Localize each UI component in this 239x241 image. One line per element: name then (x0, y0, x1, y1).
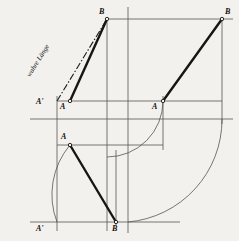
arc-outer-quarter (128, 119, 222, 222)
point-marker-a-middle (68, 99, 71, 102)
label-a-prime-bottom: A' (36, 225, 44, 233)
label-a-middle: A (60, 103, 65, 111)
point-marker-b-top-right (220, 17, 223, 20)
label-b-top-left: B (99, 8, 104, 16)
segment-a-to-b-upper-left (70, 19, 107, 101)
label-a-prime-left: A' (36, 98, 44, 106)
arc-small-left (52, 145, 70, 222)
point-marker-a-lower (68, 143, 71, 146)
label-b-bottom: B (112, 225, 117, 233)
point-marker-b-top-left (105, 17, 108, 20)
construction-drawing-svg (0, 0, 239, 241)
segment-a-to-b-lower (70, 145, 116, 222)
technical-drawing-canvas: wahre Länge B B A' A A A A' B (0, 0, 239, 241)
point-marker-a-right (161, 99, 164, 102)
segment-a-to-b-upper-right (163, 19, 222, 101)
label-a-right: A (152, 103, 157, 111)
label-b-top-right: B (225, 8, 230, 16)
label-a-lower: A (61, 133, 66, 141)
true-length-dash-dot-line (57, 19, 107, 101)
